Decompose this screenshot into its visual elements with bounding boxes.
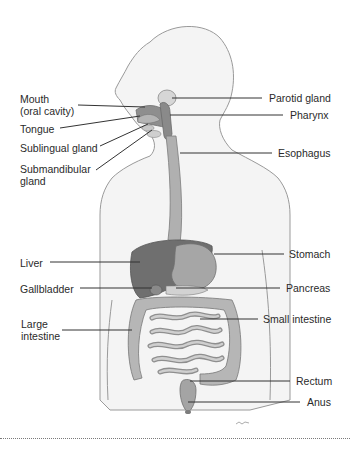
- dotted-divider: [0, 438, 350, 439]
- label-gallbladder: Gallbladder: [20, 283, 74, 295]
- leader-tongue: [60, 116, 140, 128]
- stomach-shape: [172, 244, 217, 291]
- artist-signature: [236, 422, 249, 424]
- label-anus: Anus: [307, 396, 331, 408]
- gallbladder-shape: [150, 285, 162, 295]
- anus-shape: [185, 410, 191, 414]
- label-liver: Liver: [20, 257, 43, 269]
- leader-sublingual: [100, 124, 148, 146]
- label-esophagus: Esophagus: [278, 147, 331, 159]
- label-sublingual-gland: Sublingual gland: [20, 142, 98, 154]
- label-tongue: Tongue: [20, 123, 54, 135]
- label-small-intestine: Small intestine: [263, 313, 331, 325]
- label-stomach: Stomach: [289, 248, 330, 260]
- label-large-intestine: Large intestine: [21, 318, 60, 342]
- label-pancreas: Pancreas: [286, 282, 330, 294]
- label-parotid-gland: Parotid gland: [269, 92, 331, 104]
- label-mouth: Mouth (oral cavity): [20, 93, 74, 117]
- label-submandibular-gland: Submandibular gland: [20, 163, 91, 187]
- label-pharynx: Pharynx: [290, 109, 329, 121]
- label-rectum: Rectum: [296, 375, 332, 387]
